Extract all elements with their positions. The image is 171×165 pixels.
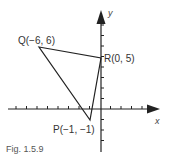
point-label-r: R(0, 5) (104, 53, 135, 64)
point-label-q: Q(−6, 6) (18, 35, 55, 46)
figure-caption: Fig. 1.5.9 (6, 144, 44, 154)
coordinate-figure: y x Q(−6, 6) R(0, 5) P(−1, −1) Fig. 1.5.… (0, 0, 171, 165)
y-axis-label: y (107, 8, 113, 18)
point-label-p: P(−1, −1) (53, 124, 95, 135)
x-axis-label: x (154, 116, 160, 126)
y-axis (97, 10, 106, 152)
